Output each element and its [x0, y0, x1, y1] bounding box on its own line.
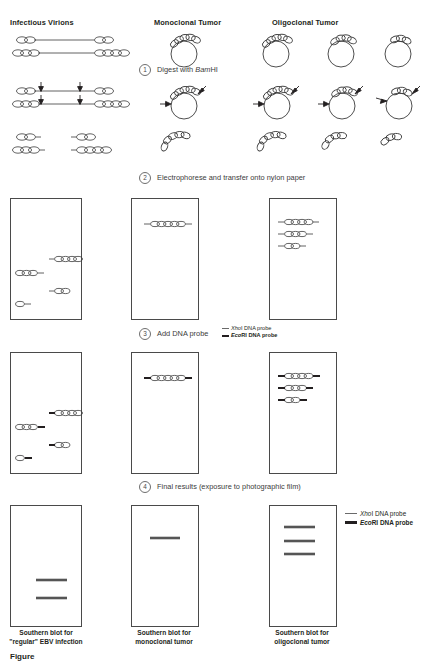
gel-band [144, 221, 192, 226]
southern-blot-regular-ebv [10, 505, 82, 627]
probe-key-ecori: EcoRI DNA probe [222, 332, 277, 339]
caption-regular-ebv: Southern blot for "regular" EBV infectio… [2, 629, 90, 646]
southern-blot-monoclonal [131, 505, 199, 627]
infectious-virions-digested [8, 78, 138, 120]
legend-label-xhoi: XhoI DNA probe [360, 509, 406, 518]
step-3-label: Add DNA probe [157, 328, 208, 338]
step-1-digest: 1 Digest with BamHI [139, 64, 218, 76]
gel-panel-infectious-virions-probed [10, 352, 82, 474]
step-2-label: Electrophorese and transfer onto nylon p… [157, 172, 305, 182]
infectious-virions-fragments [8, 130, 138, 160]
monoclonal-fragment [156, 128, 216, 158]
probe-legend: XhoI DNA probe EcoRI DNA probe [345, 509, 413, 527]
step-4-number: 4 [139, 481, 151, 493]
step-2-number: 2 [139, 172, 151, 184]
figure-caption-partial: Figure [10, 652, 34, 661]
step-3-add-probe: 3 Add DNA probe [139, 328, 208, 340]
step-4-label: Final results (exposure to photographic … [157, 481, 301, 491]
gel-band [16, 256, 83, 306]
autorad-band [284, 527, 315, 554]
oligoclonal-episomes-intact [252, 30, 422, 72]
step-3-number: 3 [139, 328, 151, 340]
step-4-final-results: 4 Final results (exposure to photographi… [139, 481, 301, 493]
legend-item-xhoi: XhoI DNA probe [345, 509, 413, 518]
southern-blot-oligoclonal [269, 505, 337, 627]
caption-oligoclonal: Southern blot for oligoclonal tumor [258, 629, 346, 646]
gel-panel-oligoclonal-probed [269, 352, 337, 474]
autorad-band [36, 580, 67, 598]
xhoi-line-swatch-icon [345, 513, 357, 514]
xhoi-line-swatch-icon [222, 328, 229, 329]
probe-key-inline: XhoI DNA probe EcoRI DNA probe [222, 325, 277, 339]
gel-band [278, 219, 319, 248]
legend-item-ecori: EcoRI DNA probe [345, 518, 413, 527]
bamhi-cut-arrows [39, 82, 83, 105]
column-title-monoclonal-tumor: Monoclonal Tumor [154, 18, 221, 27]
oligoclonal-episomes-digested [243, 82, 423, 124]
column-title-oligoclonal-tumor: Oligoclonal Tumor [272, 18, 338, 27]
step-2-electrophorese: 2 Electrophorese and transfer onto nylon… [139, 172, 305, 184]
ecori-line-swatch-icon [345, 521, 357, 523]
probe-key-xhoi: XhoI DNA probe [222, 325, 277, 332]
probe-hybridization-mark [278, 376, 320, 400]
column-title-infectious-virions: Infectious Virions [10, 18, 74, 27]
gel-panel-oligoclonal-electrophoresis [269, 198, 337, 320]
caption-monoclonal: Southern blot for monoclonal tumor [120, 629, 208, 646]
legend-label-ecori: EcoRI DNA probe [360, 518, 413, 527]
monoclonal-episome-digested [150, 82, 220, 124]
gel-panel-monoclonal-probed [131, 352, 199, 474]
step-1-label: Digest with BamHI [157, 64, 218, 74]
gel-panel-infectious-virions-electrophoresis [10, 198, 82, 320]
ecori-line-swatch-icon [222, 335, 229, 337]
gel-panel-monoclonal-electrophoresis [131, 198, 199, 320]
step-1-number: 1 [139, 64, 151, 76]
probe-hybridization-mark [25, 413, 55, 458]
oligoclonal-fragments [252, 128, 422, 158]
infectious-virions-intact-dna [8, 33, 138, 67]
